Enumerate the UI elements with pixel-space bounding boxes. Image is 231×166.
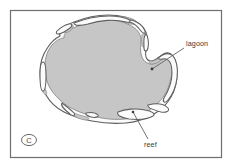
reef-leader-dot xyxy=(132,111,135,114)
lagoon-label: lagoon xyxy=(186,39,208,48)
panel-letter-badge: C xyxy=(22,134,37,145)
reef-islet-right-upper xyxy=(144,34,149,51)
reef-islet-left xyxy=(40,62,46,91)
figure-container: lagoon reef C xyxy=(0,0,231,166)
atoll-diagram: lagoon reef C xyxy=(0,0,231,166)
lagoon-leader-dot xyxy=(151,68,154,71)
panel-letter: C xyxy=(26,136,32,145)
reef-label: reef xyxy=(144,140,157,149)
